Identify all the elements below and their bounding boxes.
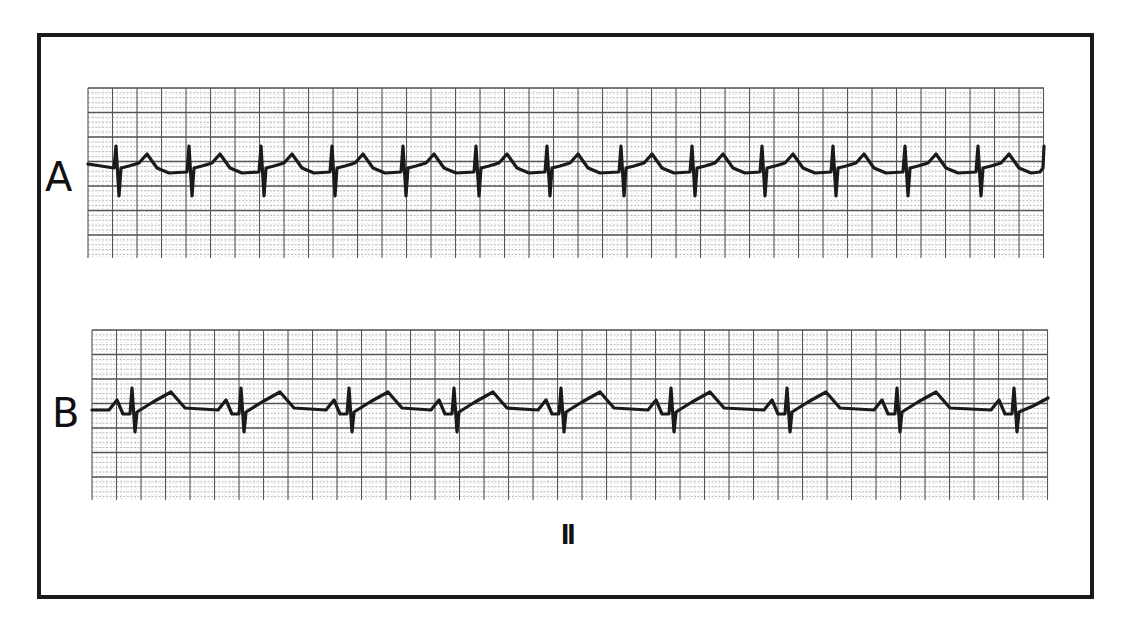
ecg-strip-b — [92, 330, 1048, 500]
ecg-strip-a — [88, 88, 1044, 258]
ecg-trace — [92, 388, 1048, 432]
strip-label-a: A — [45, 157, 72, 197]
lead-label: II — [561, 517, 574, 551]
strip-label-b: B — [52, 393, 79, 433]
